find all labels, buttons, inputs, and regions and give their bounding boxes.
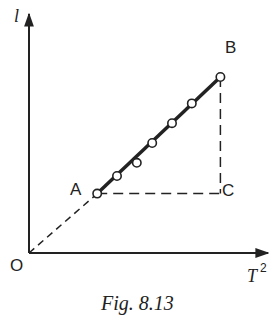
data-point-a	[93, 189, 101, 197]
data-point	[188, 99, 196, 107]
figure-caption: Fig. 8.13	[100, 292, 174, 315]
figure-canvas: l O T 2 A B C Fig. 8.13	[0, 0, 275, 320]
point-label-c: C	[222, 181, 234, 200]
data-point	[113, 172, 121, 180]
point-label-a: A	[70, 180, 82, 199]
data-point	[168, 119, 176, 127]
extrapolation-line-oa	[29, 194, 97, 253]
y-axis-label: l	[14, 6, 19, 26]
point-label-b: B	[225, 38, 236, 57]
data-point	[148, 139, 156, 147]
data-point	[133, 159, 141, 167]
data-point-b	[216, 73, 224, 81]
x-axis-label: T	[247, 266, 259, 286]
x-axis-label-superscript: 2	[260, 261, 267, 275]
origin-label: O	[10, 256, 23, 275]
